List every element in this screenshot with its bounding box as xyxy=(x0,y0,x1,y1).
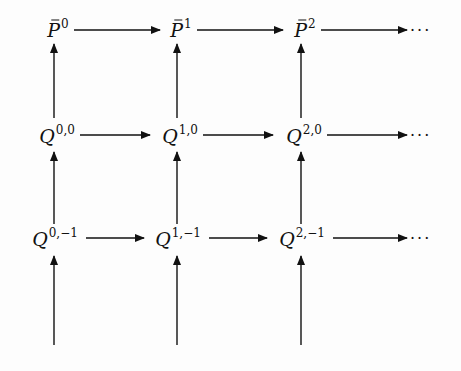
node-q-0-m1: Q0,−1 xyxy=(32,230,78,249)
node-q-2-m1: Q2,−1 xyxy=(279,230,325,249)
node-q-1-m1: Q1,−1 xyxy=(155,230,201,249)
continuation-dots-row-qm1: ··· xyxy=(410,229,431,248)
node-pbar-2: P2 xyxy=(294,21,315,40)
node-pbar-1: P1 xyxy=(170,21,191,40)
node-q-0-0: Q0,0 xyxy=(39,127,75,146)
continuation-dots-row-p: ··· xyxy=(410,21,431,40)
node-q-1-0: Q1,0 xyxy=(162,127,198,146)
node-q-2-0: Q2,0 xyxy=(286,127,322,146)
arrows-layer xyxy=(0,0,461,371)
node-pbar-0: P0 xyxy=(47,21,68,40)
continuation-dots-row-q0: ··· xyxy=(410,126,431,145)
